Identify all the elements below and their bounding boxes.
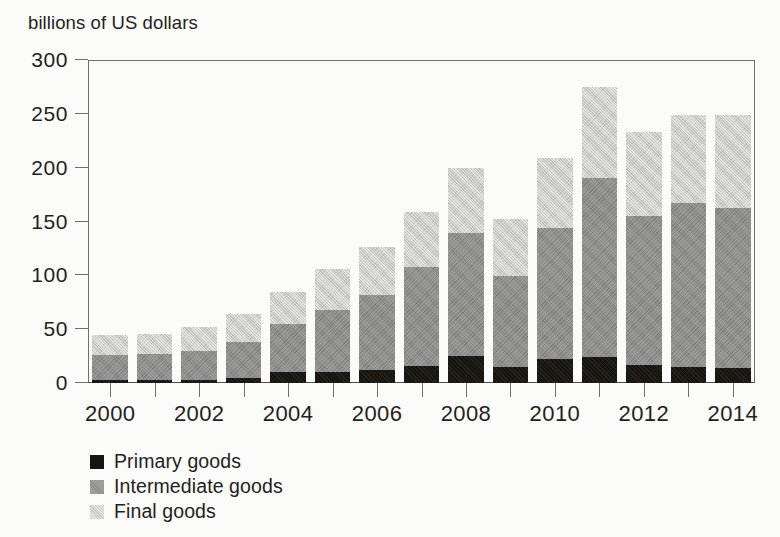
bar-segment-primary xyxy=(537,359,573,383)
x-axis-tick-mark xyxy=(733,383,734,397)
legend-item-label: Intermediate goods xyxy=(114,475,283,498)
y-axis-tick-mark xyxy=(75,113,88,114)
bar-segment-final xyxy=(270,292,306,324)
x-axis-tick-label: 2010 xyxy=(530,401,581,427)
bar-segment-primary xyxy=(582,357,618,383)
bar-segment-primary xyxy=(715,368,751,383)
y-axis-tick-label: 50 xyxy=(43,317,68,341)
legend-item-intermediate[interactable]: Intermediate goods xyxy=(90,474,283,499)
bar-segment-final xyxy=(448,168,484,234)
bar-segment-intermediate xyxy=(537,228,573,359)
chart-figure: billions of US dollars 05010015020025030… xyxy=(0,0,780,537)
bar-segment-final xyxy=(137,334,173,354)
bar-segment-final xyxy=(626,132,662,216)
x-axis-tick-mark xyxy=(466,383,467,397)
bar-segment-final xyxy=(315,269,351,310)
x-axis-tick-mark xyxy=(333,383,334,397)
y-axis-tick-label: 0 xyxy=(56,371,68,395)
bar-column xyxy=(315,269,351,383)
bar-segment-final xyxy=(537,158,573,228)
bar-column xyxy=(270,291,306,383)
legend-swatch-icon xyxy=(90,455,104,469)
bar-segment-final xyxy=(582,87,618,179)
x-axis-tick-mark xyxy=(510,383,511,397)
bar-segment-intermediate xyxy=(226,342,262,378)
x-axis-tick-label: 2014 xyxy=(707,401,758,427)
bar-segment-primary xyxy=(493,367,529,383)
y-axis-tick-label: 300 xyxy=(31,48,68,72)
bar-segment-intermediate xyxy=(671,203,707,367)
bar-column xyxy=(181,327,217,383)
bar-segment-final xyxy=(493,219,529,276)
bar-column xyxy=(671,115,707,383)
legend-swatch-icon xyxy=(90,480,104,494)
bar-segment-primary xyxy=(626,365,662,383)
bar-segment-final xyxy=(359,247,395,294)
bar-segment-intermediate xyxy=(270,324,306,372)
x-axis: 20002002200420062008201020122014 xyxy=(88,383,755,453)
bar-segment-primary xyxy=(448,356,484,383)
bar-segment-primary xyxy=(671,367,707,383)
bar-segment-primary xyxy=(404,366,440,383)
y-axis: 050100150200250300 xyxy=(0,0,88,537)
bar-segment-intermediate xyxy=(315,310,351,372)
bar-segment-intermediate xyxy=(582,178,618,357)
y-axis-tick-label: 100 xyxy=(31,263,68,287)
x-axis-tick-mark xyxy=(555,383,556,397)
chart-legend: Primary goodsIntermediate goodsFinal goo… xyxy=(90,449,283,524)
x-axis-tick-mark xyxy=(377,383,378,397)
bar-segment-primary xyxy=(315,372,351,383)
bar-segment-final xyxy=(715,115,751,208)
x-axis-tick-mark xyxy=(422,383,423,397)
bar-segment-intermediate xyxy=(137,354,173,380)
bar-segment-intermediate xyxy=(404,267,440,366)
bars-layer xyxy=(88,60,755,383)
x-axis-tick-mark xyxy=(688,383,689,397)
x-axis-tick-label: 2002 xyxy=(174,401,225,427)
bar-segment-intermediate xyxy=(448,233,484,356)
bar-column xyxy=(448,168,484,383)
bar-segment-intermediate xyxy=(181,351,217,380)
x-axis-tick-label: 2004 xyxy=(263,401,314,427)
bar-segment-intermediate xyxy=(493,276,529,366)
y-axis-tick-mark xyxy=(75,59,88,60)
bar-segment-final xyxy=(671,115,707,203)
bar-column xyxy=(92,335,128,383)
x-axis-tick-mark xyxy=(244,383,245,397)
x-axis-tick-mark xyxy=(155,383,156,397)
bar-column xyxy=(359,247,395,383)
y-axis-tick-label: 150 xyxy=(31,210,68,234)
bar-column xyxy=(226,314,262,383)
legend-item-label: Final goods xyxy=(114,500,216,523)
legend-item-label: Primary goods xyxy=(114,450,241,473)
y-axis-tick-mark xyxy=(75,382,88,383)
y-axis-tick-mark xyxy=(75,328,88,329)
bar-segment-final xyxy=(404,212,440,267)
y-axis-tick-mark xyxy=(75,221,88,222)
x-axis-tick-mark xyxy=(288,383,289,397)
legend-item-final[interactable]: Final goods xyxy=(90,499,283,524)
y-axis-tick-label: 200 xyxy=(31,156,68,180)
x-axis-tick-mark xyxy=(199,383,200,397)
bar-segment-intermediate xyxy=(715,208,751,368)
bar-column xyxy=(537,158,573,383)
x-axis-tick-mark xyxy=(599,383,600,397)
bar-segment-intermediate xyxy=(626,216,662,365)
bar-column xyxy=(493,219,529,383)
y-axis-tick-label: 250 xyxy=(31,102,68,126)
bar-segment-final xyxy=(181,327,217,351)
y-axis-tick-mark xyxy=(75,274,88,275)
legend-swatch-icon xyxy=(90,505,104,519)
bar-segment-final xyxy=(92,335,128,355)
legend-item-primary[interactable]: Primary goods xyxy=(90,449,283,474)
bar-column xyxy=(715,115,751,383)
bar-column xyxy=(404,212,440,383)
x-axis-tick-mark xyxy=(110,383,111,397)
bar-segment-primary xyxy=(270,372,306,383)
bar-segment-final xyxy=(226,314,262,342)
x-axis-tick-label: 2012 xyxy=(619,401,670,427)
bar-segment-primary xyxy=(359,370,395,383)
y-axis-tick-mark xyxy=(75,167,88,168)
bar-segment-intermediate xyxy=(92,355,128,380)
x-axis-tick-label: 2006 xyxy=(352,401,403,427)
